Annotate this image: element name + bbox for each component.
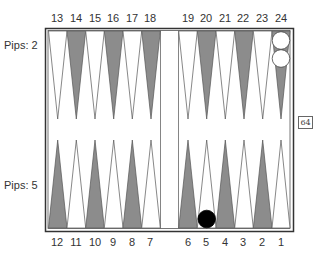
point-label-5: 5 <box>197 237 215 248</box>
doubling-cube[interactable]: 64 <box>298 116 313 129</box>
point-label-11: 11 <box>67 237 85 248</box>
point-label-12: 12 <box>48 237 66 248</box>
point-label-7: 7 <box>141 237 159 248</box>
point-label-1: 1 <box>272 237 290 248</box>
black-checker[interactable] <box>198 210 216 228</box>
point-label-8: 8 <box>123 237 141 248</box>
point-label-9: 9 <box>104 237 122 248</box>
white-checker[interactable] <box>272 32 290 50</box>
point-label-10: 10 <box>86 237 104 248</box>
point-label-4: 4 <box>216 237 234 248</box>
white-checker[interactable] <box>272 50 290 68</box>
point-label-6: 6 <box>179 237 197 248</box>
backgammon-board <box>0 0 327 256</box>
point-label-3: 3 <box>234 237 252 248</box>
point-label-2: 2 <box>253 237 271 248</box>
